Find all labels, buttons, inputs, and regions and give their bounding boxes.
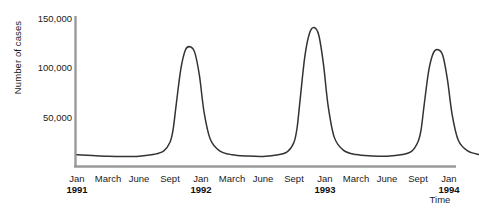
x-tick-label: Jan (193, 173, 208, 184)
x-tick-year-label: 1992 (190, 184, 211, 195)
x-tick-label: Jan (69, 173, 84, 184)
x-tick-year-label: 1991 (66, 184, 87, 195)
x-tick-label: Sept (284, 173, 304, 184)
x-tick-year-label: 1993 (314, 184, 335, 195)
data-series-line (77, 28, 479, 157)
x-tick-label: Sept (408, 173, 428, 184)
x-tick-label: Jan (441, 173, 456, 184)
epidemic-curve-chart: Number of cases 150,000 100,000 50,000 J… (0, 0, 479, 209)
x-tick-label: June (377, 173, 398, 184)
x-axis-title: Time (430, 194, 451, 205)
x-tick-label: June (253, 173, 274, 184)
x-tick-label: March (95, 173, 121, 184)
x-tick-label: March (343, 173, 369, 184)
x-tick-label: March (219, 173, 245, 184)
x-tick-label: June (129, 173, 150, 184)
x-tick-label: Sept (160, 173, 180, 184)
x-tick-label: Jan (317, 173, 332, 184)
